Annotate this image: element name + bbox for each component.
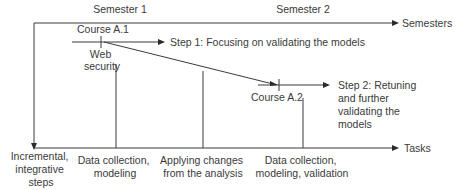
- step1-arrow-icon: [158, 39, 165, 45]
- task3-line-1: Data collection,: [265, 154, 337, 166]
- step2-line-2: and further: [338, 92, 389, 104]
- step2-arrow-icon: [323, 82, 330, 88]
- step2-label: Step 2: Retuning and further validating …: [338, 79, 419, 130]
- progression-diagonal-line: [104, 42, 273, 84]
- step2-line-4: models: [338, 118, 372, 130]
- incremental-arrow-icon: [31, 143, 37, 150]
- step2-line-3: validating the: [338, 105, 400, 117]
- task2-label: Applying changes from the analysis: [160, 154, 246, 179]
- incremental-line-3: steps: [28, 176, 53, 188]
- task1-line-2: modeling: [94, 167, 137, 179]
- tasks-arrow-icon: [392, 145, 399, 151]
- semesters-arrow-icon: [392, 20, 399, 26]
- task3-label: Data collection, modeling, validation: [256, 154, 349, 179]
- course-a2-label: Course A.2: [251, 91, 303, 103]
- semesters-axis-label: Semesters: [402, 17, 452, 29]
- semester-1-label: Semester 1: [93, 3, 147, 15]
- incremental-line-2: integrative: [15, 163, 64, 175]
- incremental-steps-label: Incremental, integrative steps: [11, 150, 72, 188]
- task2-line-1: Applying changes: [160, 154, 243, 166]
- topic-line-1: Web: [90, 48, 112, 60]
- topic-line-2: security: [84, 60, 121, 72]
- task2-line-2: from the analysis: [163, 167, 242, 179]
- incremental-line-1: Incremental,: [11, 150, 69, 162]
- tasks-axis-label: Tasks: [404, 142, 431, 154]
- semester-2-label: Semester 2: [276, 3, 330, 15]
- course-a1-topic: Web security: [84, 48, 121, 72]
- step2-line-1: Step 2: Retuning: [338, 79, 416, 91]
- process-diagram: Semester 1 Semester 2 Semesters Tasks In…: [0, 0, 462, 190]
- course-a1-label: Course A.1: [77, 23, 129, 35]
- task1-line-1: Data collection,: [78, 154, 150, 166]
- task3-line-2: modeling, validation: [256, 167, 349, 179]
- step1-label: Step 1: Focusing on validating the model…: [170, 36, 365, 48]
- task1-label: Data collection, modeling: [78, 154, 153, 179]
